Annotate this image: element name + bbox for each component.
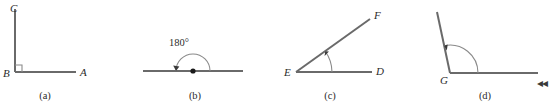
panel-caption-d: (d) bbox=[440, 91, 530, 102]
vertex-label-a: A bbox=[80, 67, 87, 78]
vertex-label-g: G bbox=[440, 75, 448, 86]
ray-g-slant-line bbox=[437, 12, 450, 73]
double-left-arrow-icon: ◂◂ bbox=[537, 77, 547, 89]
panel-caption-c: (c) bbox=[285, 91, 375, 102]
angle-arc-acute bbox=[325, 51, 332, 72]
figure-panel-c: F E D (c) bbox=[280, 0, 420, 108]
geometry-figure-panel-group: C B A (a) 180° (b) F bbox=[0, 0, 558, 108]
right-angle-marker-icon bbox=[15, 65, 22, 72]
vertex-dot bbox=[190, 68, 195, 73]
panel-caption-a: (a) bbox=[0, 91, 90, 102]
figure-panel-d: G (d) ◂◂ bbox=[420, 0, 558, 108]
figure-panel-a: C B A (a) bbox=[0, 0, 140, 108]
angle-measure-label: 180° bbox=[169, 38, 189, 49]
vertex-label-c: C bbox=[10, 3, 17, 14]
vertex-label-d: D bbox=[376, 66, 384, 77]
ray-ef-line bbox=[296, 19, 370, 72]
vertex-label-b: B bbox=[3, 68, 10, 79]
vertex-label-e: E bbox=[284, 67, 291, 78]
figure-panel-b: 180° (b) bbox=[140, 0, 280, 108]
vertex-label-f: F bbox=[374, 10, 381, 21]
panel-caption-b: (b) bbox=[150, 91, 240, 102]
